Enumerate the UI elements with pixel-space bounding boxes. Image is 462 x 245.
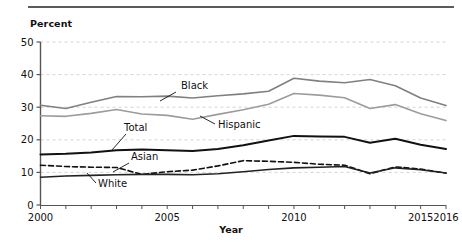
y-tick-label: 10 (21, 167, 34, 178)
series-line-white (41, 167, 447, 178)
series-label-total: Total (123, 122, 147, 133)
series-label-asian: Asian (131, 151, 158, 162)
y-tick-label: 20 (21, 134, 34, 145)
line-chart-plot: 01020304050 20002005201020152016 BlackHi… (0, 0, 462, 245)
series-label-black: Black (181, 80, 208, 91)
x-tick-label: 2005 (154, 212, 179, 223)
x-tick-label: 2015 (408, 212, 433, 223)
series-label-hispanic: Hispanic (218, 119, 261, 130)
gridlines (41, 42, 447, 172)
x-tick-label: 2000 (28, 212, 53, 223)
y-tick-label: 0 (27, 200, 33, 211)
x-tick-label: 2010 (281, 212, 306, 223)
x-axis-title: Year (0, 224, 462, 235)
x-axis-ticks: 20002005201020152016 (28, 205, 459, 223)
y-tick-label: 30 (21, 102, 34, 113)
y-tick-label: 50 (21, 37, 34, 48)
series-label-white: White (98, 178, 127, 189)
x-tick-label: 2016 (433, 212, 458, 223)
leader-line-total (112, 134, 126, 150)
chart-figure: Percent 01020304050 20002005201020152016… (0, 0, 462, 245)
series-line-black (41, 78, 447, 108)
leader-line-hispanic (200, 116, 215, 124)
y-tick-label: 40 (21, 69, 34, 80)
series-line-total (41, 136, 447, 155)
y-axis-ticks: 01020304050 (21, 37, 41, 211)
